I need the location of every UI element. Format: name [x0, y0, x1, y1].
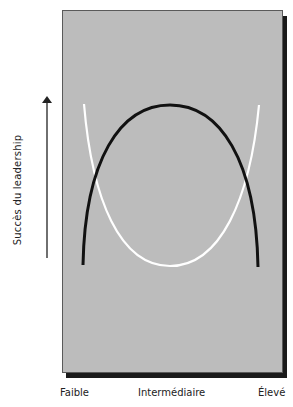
y-axis-label: Succès du leadership: [12, 135, 23, 245]
up-arrow-icon: [42, 96, 52, 258]
x-label-high: Élevé: [258, 387, 285, 398]
curves-layer: [0, 0, 293, 407]
x-label-mid: Intermédiaire: [138, 387, 205, 398]
u-curve: [84, 104, 259, 266]
inverted-u-curve: [83, 105, 258, 267]
x-label-low: Faible: [60, 387, 89, 398]
